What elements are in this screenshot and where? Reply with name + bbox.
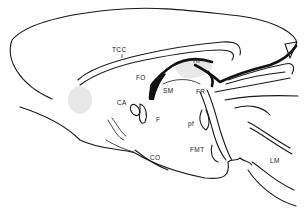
corpus-callosum-upper: [78, 42, 240, 80]
pf-structure: [200, 110, 209, 130]
label-tcc: TCC: [112, 46, 127, 53]
fissure-4: [225, 96, 298, 100]
label-sm: SM: [163, 87, 174, 94]
stripe-2: [112, 118, 126, 136]
label-pf: pf: [188, 120, 194, 128]
fornix-column: [139, 104, 146, 123]
label-f: F: [156, 116, 160, 123]
label-fmt: FMT: [190, 146, 205, 153]
brain-sagittal-diagram: TCC FO HI SM FR CA F pf FMT CO LM: [0, 0, 305, 214]
fissure-5: [235, 106, 270, 115]
shaded-region-frontal: [68, 86, 92, 114]
label-fr: FR: [196, 88, 205, 95]
label-co: CO: [150, 154, 161, 161]
lm-line-2: [250, 128, 292, 154]
fmt-structure: [211, 145, 218, 162]
lm-line-1: [248, 122, 290, 148]
label-ca: CA: [117, 99, 127, 106]
stria-medullaris: [163, 80, 200, 85]
label-hi: HI: [193, 57, 200, 64]
fornix-knot: [149, 72, 166, 100]
lm-line-3: [252, 162, 294, 190]
label-fo: FO: [136, 74, 146, 81]
label-lm: LM: [270, 157, 280, 164]
